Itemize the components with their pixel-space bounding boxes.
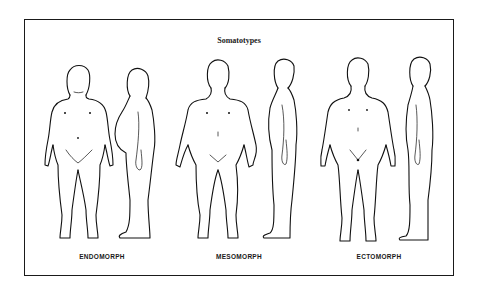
endomorph-front-figure xyxy=(45,66,113,239)
somatotype-illustrations xyxy=(0,0,481,296)
ectomorph-front-figure xyxy=(321,58,396,241)
ectomorph-side-figure xyxy=(399,57,433,240)
mesomorph-side-figure xyxy=(263,59,297,238)
mesomorph-front-figure xyxy=(176,60,256,238)
endomorph-side-figure xyxy=(115,68,155,238)
